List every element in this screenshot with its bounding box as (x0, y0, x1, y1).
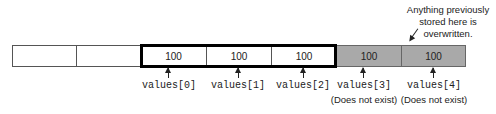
index-label-1: values[1] (203, 80, 273, 91)
arrow-up-icon (433, 68, 434, 78)
array-cell-2: 100 (271, 45, 337, 67)
does-not-exist-note-4: (Does not exist) (397, 94, 471, 105)
index-label-3: values[3] (329, 80, 399, 91)
array-cell-1: 100 (206, 45, 272, 67)
overflow-cell-3: 100 (336, 45, 402, 67)
index-label-4: values[4] (399, 80, 469, 91)
does-not-exist-note-3: (Does not exist) (327, 94, 401, 105)
index-label-2: values[2] (268, 80, 338, 91)
overwrite-callout: Anything previously stored here is overw… (400, 4, 496, 40)
arrow-up-icon (363, 68, 364, 78)
index-label-0: values[0] (134, 80, 204, 91)
arrow-up-icon (238, 68, 239, 78)
arrow-up-icon (303, 68, 304, 78)
memory-cell-empty-2 (76, 45, 141, 67)
array-cell-0: 100 (140, 45, 207, 67)
arrow-up-icon (168, 68, 169, 78)
memory-cell-empty-1 (12, 45, 77, 67)
overflow-cell-4: 100 (401, 45, 466, 67)
